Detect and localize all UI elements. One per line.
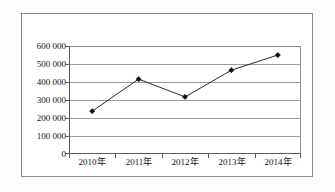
x-tick-label-2010: 2010年 [67,157,117,168]
data-point-2014年 [275,52,280,57]
y-tick-label: 0 [62,150,67,159]
y-tick-label: 200 000 [37,114,66,123]
x-tick-label-2012: 2012年 [160,157,210,168]
y-tick-label: 400 000 [37,78,66,87]
x-tick-label-2011: 2011年 [114,157,164,168]
x-tick-label-2013: 2013年 [207,157,257,168]
figure-frame-border: 600 000 500 000 400 000 300 000 200 000 … [21,13,313,177]
y-tick-label: 300 000 [37,96,66,105]
series-line [92,55,278,111]
y-tick-label: 600 000 [37,42,66,51]
x-tick-label-2014: 2014年 [253,157,303,168]
data-point-2012年 [182,94,187,99]
data-point-2013年 [229,68,234,73]
series-plot [69,46,301,154]
y-tick-label: 500 000 [37,60,66,69]
chart-figure: 600 000 500 000 400 000 300 000 200 000 … [0,0,335,192]
y-axis-labels: 600 000 500 000 400 000 300 000 200 000 … [22,46,66,154]
y-tick-label: 100 000 [37,132,66,141]
plot-area [69,46,301,154]
series-markers [90,52,281,113]
x-axis-labels: 2010年 2011年 2012年 2013年 2014年 [69,157,301,173]
